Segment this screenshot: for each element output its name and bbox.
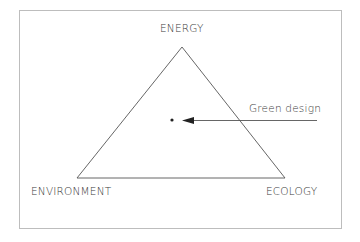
vertex-label-energy: ENERGY xyxy=(160,22,204,34)
arrow-head-icon xyxy=(182,117,194,124)
vertex-label-environment: ENVIRONMENT xyxy=(31,185,111,197)
vertex-label-ecology: ECOLOGY xyxy=(266,185,317,197)
center-point xyxy=(170,118,173,121)
diagram-canvas xyxy=(0,0,360,242)
annotation-label-green-design: Green design xyxy=(249,102,321,114)
